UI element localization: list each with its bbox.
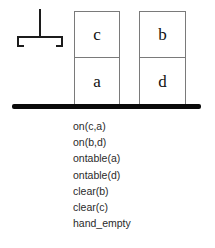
- block-d[interactable]: d: [139, 58, 186, 105]
- predicate-item: hand_empty: [0, 215, 215, 231]
- table-surface: [12, 104, 201, 109]
- block-c[interactable]: c: [74, 11, 120, 58]
- predicate-item: ontable(d): [0, 167, 215, 183]
- robot-gripper-icon: [16, 9, 64, 49]
- predicate-item: clear(c): [0, 199, 215, 215]
- gripper-foot-right: [56, 45, 63, 47]
- right-stack: b d: [139, 11, 186, 105]
- gripper-stem: [39, 9, 41, 37]
- predicate-list: on(c,a) on(b,d) ontable(a) ontable(d) cl…: [0, 118, 215, 231]
- left-stack: c a: [74, 11, 120, 105]
- predicate-item: ontable(a): [0, 150, 215, 166]
- predicate-item: on(b,d): [0, 134, 215, 150]
- gripper-crossbar: [17, 36, 63, 38]
- block-a[interactable]: a: [74, 58, 120, 105]
- predicate-item: on(c,a): [0, 118, 215, 134]
- gripper-foot-left: [17, 45, 24, 47]
- blocks-world-scene: c a b d: [0, 0, 215, 118]
- block-b[interactable]: b: [139, 11, 186, 58]
- predicate-item: clear(b): [0, 183, 215, 199]
